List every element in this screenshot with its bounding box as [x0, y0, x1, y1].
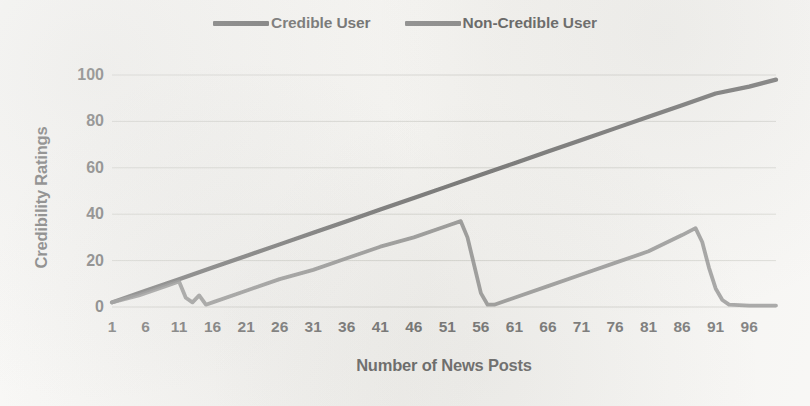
gridlines: [112, 75, 776, 307]
series-line-credible-user: [112, 80, 776, 303]
data-series-layer: [112, 80, 776, 306]
series-line-non-credible-user: [112, 221, 776, 305]
plot-area: [0, 0, 810, 406]
credibility-ratings-line-chart: Credible User Non-Credible User Credibil…: [0, 0, 810, 406]
